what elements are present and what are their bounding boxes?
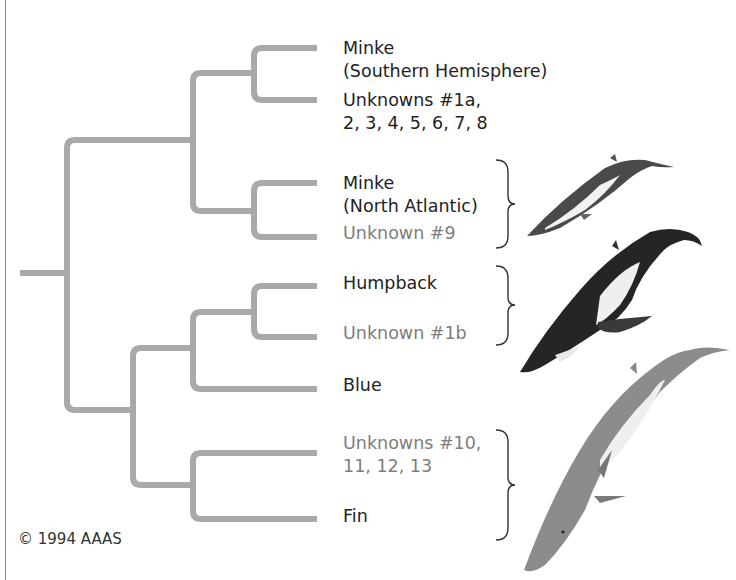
humpback-whale-icon	[520, 229, 702, 372]
minke-whale-icon	[527, 154, 674, 236]
whale-illustrations	[0, 0, 736, 580]
brace-minke	[496, 160, 515, 248]
copyright-text: © 1994 AAAS	[18, 530, 122, 548]
brace-fin	[496, 430, 515, 540]
fin-whale-icon	[524, 348, 730, 572]
brace-humpback	[496, 266, 515, 345]
